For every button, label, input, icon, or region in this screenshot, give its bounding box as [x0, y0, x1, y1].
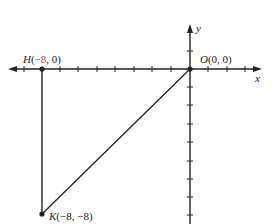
label-H: H(−8, 0)	[22, 53, 61, 66]
label-O: O(0, 0)	[200, 53, 232, 66]
y-axis-up-arrow-icon	[187, 24, 193, 33]
x-axis	[8, 66, 262, 72]
segment-KO	[42, 69, 190, 214]
point-O	[187, 66, 192, 71]
label-K: K(−8, −8)	[48, 210, 93, 223]
y-axis-label: y	[195, 22, 201, 34]
x-axis-label: x	[254, 72, 260, 84]
point-K	[39, 211, 44, 216]
y-axis	[187, 24, 193, 224]
point-H	[39, 66, 44, 71]
coordinate-diagram: H(−8, 0) O(0, 0) K(−8, −8) x y	[0, 0, 276, 224]
x-axis-left-arrow-icon	[8, 66, 17, 72]
